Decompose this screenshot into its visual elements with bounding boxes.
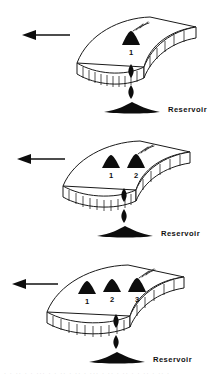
volcano-number-label: 1 xyxy=(85,297,89,306)
hotspot-volcano-diagram: 1 Reservoir xyxy=(0,0,221,378)
reservoir-label: Reservoir xyxy=(153,355,192,364)
volcano-number-label: 2 xyxy=(134,171,138,180)
panel-stage-3: 1 2 3 xyxy=(0,250,221,376)
reservoir-shape xyxy=(89,352,145,364)
magma-blob xyxy=(128,85,133,99)
magma-blob xyxy=(121,209,126,223)
panel-stage-1: 1 Reservoir xyxy=(0,0,221,126)
magma-reservoir xyxy=(97,226,153,238)
cut-off-caption: · · ·· · · ··· · · ·· · ·· · ··· · ·· · … xyxy=(0,368,221,378)
cut-off-caption-text: · · ·· · · ··· · · ·· · ·· · ··· · ·· · … xyxy=(0,368,221,378)
magma-reservoir xyxy=(104,102,160,114)
magma-blob xyxy=(113,335,118,349)
volcano-number-label: 1 xyxy=(129,48,133,57)
reservoir-shape xyxy=(104,102,160,114)
panel-3-drawing: 1 2 3 xyxy=(0,250,221,378)
plate-motion-arrow xyxy=(22,30,70,40)
volcano-number-label: 3 xyxy=(135,295,139,304)
volcano-number-label: 2 xyxy=(110,295,114,304)
reservoir-label: Reservoir xyxy=(161,229,200,238)
panel-stage-2: 1 2 Reservoir xyxy=(0,126,221,252)
plate-motion-arrow xyxy=(17,154,65,164)
panel-1-drawing: 1 Reservoir xyxy=(0,0,221,126)
volcano-number-label: 1 xyxy=(109,171,113,180)
reservoir-shape xyxy=(97,226,153,238)
plate-motion-arrow xyxy=(12,279,58,289)
panel-2-drawing: 1 2 Reservoir xyxy=(0,126,221,252)
reservoir-label: Reservoir xyxy=(168,105,207,114)
magma-reservoir xyxy=(89,352,145,364)
